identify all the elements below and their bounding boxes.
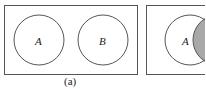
set-label-a-A: A — [35, 35, 42, 47]
set-label-b-A: A — [182, 35, 189, 47]
set-label-a-B: B — [99, 35, 106, 47]
caption-a: (a) — [64, 75, 76, 87]
universe-box-a — [5, 6, 138, 75]
venn-diagram-a — [5, 6, 138, 75]
venn-diagram-b — [147, 6, 206, 75]
